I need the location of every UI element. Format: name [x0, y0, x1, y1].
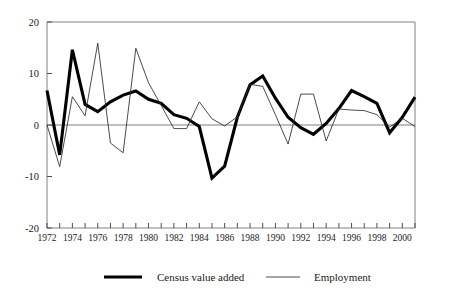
y-tick-label: 0: [34, 120, 39, 131]
x-tick-label: 1972: [38, 233, 57, 243]
y-tick-label: -20: [25, 223, 39, 234]
y-tick-label: 10: [29, 68, 40, 79]
legend-label-employment: Employment: [314, 271, 371, 283]
y-axis-ticks: 20100-10-20: [25, 17, 52, 234]
x-tick-label: 1998: [367, 233, 386, 243]
x-tick-label: 1984: [190, 233, 209, 243]
x-axis-ticks: [47, 223, 415, 228]
chart-figure: 20100-10-20 1972197419761978198019821984…: [0, 0, 450, 303]
x-tick-label: 1980: [139, 233, 158, 243]
x-tick-label: 1994: [317, 233, 336, 243]
x-tick-label: 1986: [215, 233, 234, 243]
x-tick-label: 1974: [63, 233, 82, 243]
chart-legend: Census value added Employment: [104, 271, 371, 283]
x-tick-label: 1982: [164, 233, 183, 243]
x-tick-label: 2000: [393, 233, 412, 243]
x-tick-label: 1992: [291, 233, 310, 243]
x-tick-label: 1990: [266, 233, 285, 243]
y-tick-label: -10: [25, 171, 39, 182]
line-chart: 20100-10-20 1972197419761978198019821984…: [0, 0, 450, 303]
x-tick-label: 1976: [88, 233, 107, 243]
legend-label-census-value-added: Census value added: [157, 271, 245, 283]
series-line-employment: [47, 43, 415, 167]
x-tick-label: 1988: [241, 233, 260, 243]
x-tick-label: 1978: [114, 233, 133, 243]
y-tick-label: 20: [29, 17, 40, 28]
x-axis-labels: 1972197419761978198019821984198619881990…: [38, 233, 413, 243]
series-line-census-value-added: [47, 50, 415, 178]
x-tick-label: 1996: [342, 233, 361, 243]
series-layer: [47, 43, 415, 178]
